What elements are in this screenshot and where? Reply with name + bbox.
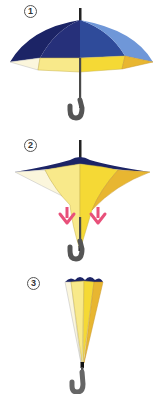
step-3-closed-umbrella: 3 xyxy=(0,260,163,394)
step-2-handle-and-arrows xyxy=(0,205,163,265)
down-arrow-icon-left xyxy=(60,207,74,223)
closed-umbrella-illustration xyxy=(0,260,163,394)
open-umbrella-illustration xyxy=(0,0,163,130)
step-2-lower xyxy=(0,205,163,265)
down-arrow-icon-right xyxy=(91,207,105,223)
step-1-open-umbrella: 1 xyxy=(0,0,163,130)
